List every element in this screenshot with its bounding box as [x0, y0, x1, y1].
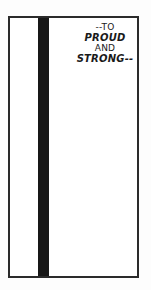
comic-panel-frame: --TO PROUD AND STRONG--	[8, 16, 139, 278]
caption-line-3: AND	[73, 43, 137, 54]
comic-panel-scene: --TO PROUD AND STRONG--	[0, 0, 151, 290]
panel-left-column	[10, 18, 38, 276]
caption-line-4: STRONG--	[73, 54, 137, 65]
caption-text-block: --TO PROUD AND STRONG--	[73, 22, 137, 64]
panel-right-column: --TO PROUD AND STRONG--	[49, 18, 137, 276]
panel-divider-bar	[38, 18, 49, 276]
caption-line-2: PROUD	[73, 33, 137, 44]
caption-line-1: --TO	[73, 22, 137, 33]
